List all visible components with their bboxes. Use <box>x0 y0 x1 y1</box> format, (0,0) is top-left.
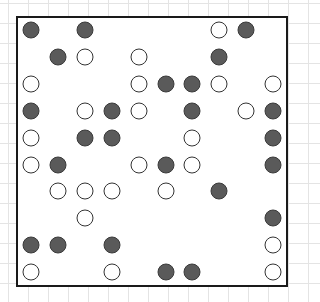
open-circle-piece[interactable] <box>184 129 201 146</box>
filled-circle-piece[interactable] <box>265 129 282 146</box>
filled-circle-piece[interactable] <box>103 102 120 119</box>
filled-circle-piece[interactable] <box>103 237 120 254</box>
filled-circle-piece[interactable] <box>49 48 66 65</box>
open-circle-piece[interactable] <box>130 156 147 173</box>
open-circle-piece[interactable] <box>23 75 40 92</box>
filled-circle-piece[interactable] <box>49 237 66 254</box>
open-circle-piece[interactable] <box>157 183 174 200</box>
open-circle-piece[interactable] <box>49 183 66 200</box>
open-circle-piece[interactable] <box>23 129 40 146</box>
open-circle-piece[interactable] <box>184 156 201 173</box>
open-circle-piece[interactable] <box>23 156 40 173</box>
filled-circle-piece[interactable] <box>265 102 282 119</box>
filled-circle-piece[interactable] <box>157 264 174 281</box>
open-circle-piece[interactable] <box>76 102 93 119</box>
open-circle-piece[interactable] <box>76 210 93 227</box>
open-circle-piece[interactable] <box>103 264 120 281</box>
open-circle-piece[interactable] <box>265 237 282 254</box>
open-circle-piece[interactable] <box>211 75 228 92</box>
game-board[interactable] <box>16 16 288 287</box>
filled-circle-piece[interactable] <box>49 156 66 173</box>
filled-circle-piece[interactable] <box>211 183 228 200</box>
open-circle-piece[interactable] <box>265 264 282 281</box>
open-circle-piece[interactable] <box>238 102 255 119</box>
open-circle-piece[interactable] <box>130 75 147 92</box>
filled-circle-piece[interactable] <box>23 237 40 254</box>
filled-circle-piece[interactable] <box>184 102 201 119</box>
open-circle-piece[interactable] <box>76 183 93 200</box>
filled-circle-piece[interactable] <box>211 48 228 65</box>
open-circle-piece[interactable] <box>211 22 228 39</box>
filled-circle-piece[interactable] <box>157 156 174 173</box>
filled-circle-piece[interactable] <box>76 22 93 39</box>
filled-circle-piece[interactable] <box>265 156 282 173</box>
open-circle-piece[interactable] <box>23 264 40 281</box>
filled-circle-piece[interactable] <box>23 102 40 119</box>
filled-circle-piece[interactable] <box>23 22 40 39</box>
open-circle-piece[interactable] <box>103 183 120 200</box>
open-circle-piece[interactable] <box>130 102 147 119</box>
open-circle-piece[interactable] <box>130 48 147 65</box>
filled-circle-piece[interactable] <box>157 75 174 92</box>
filled-circle-piece[interactable] <box>76 129 93 146</box>
filled-circle-piece[interactable] <box>265 210 282 227</box>
filled-circle-piece[interactable] <box>184 264 201 281</box>
filled-circle-piece[interactable] <box>238 22 255 39</box>
filled-circle-piece[interactable] <box>184 75 201 92</box>
filled-circle-piece[interactable] <box>103 129 120 146</box>
open-circle-piece[interactable] <box>265 75 282 92</box>
open-circle-piece[interactable] <box>76 48 93 65</box>
